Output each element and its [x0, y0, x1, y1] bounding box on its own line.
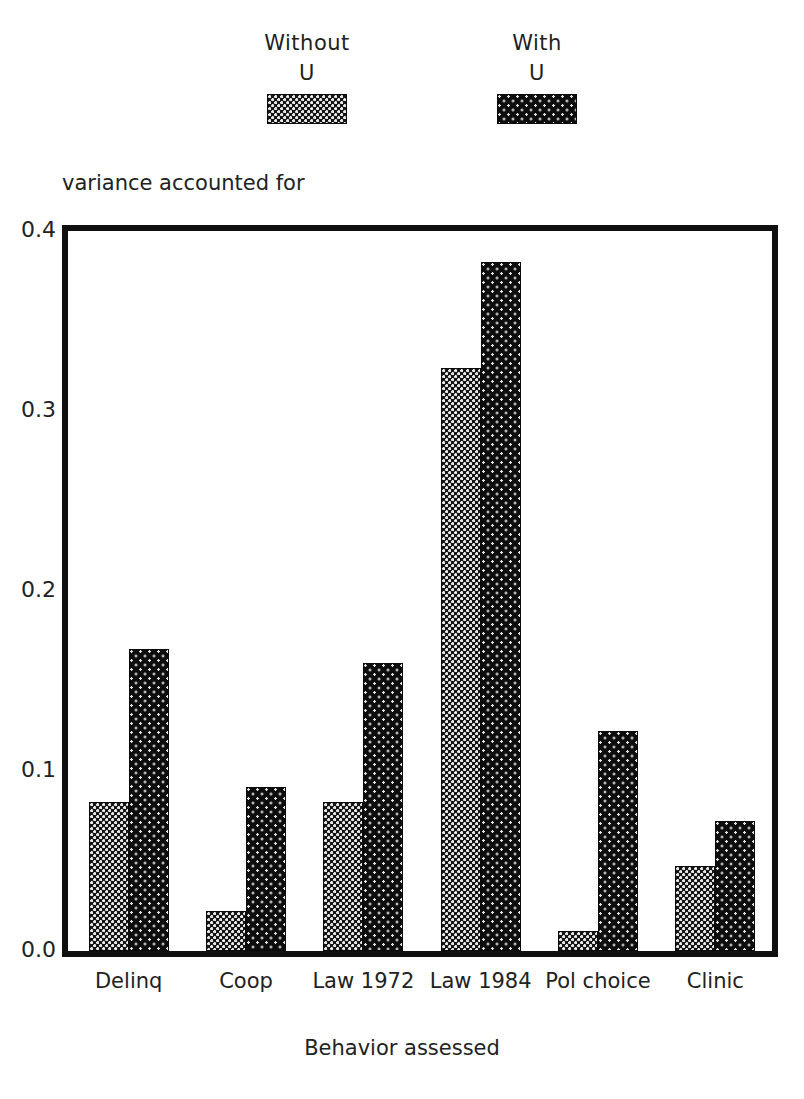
y-axis-tick-label: 0.3 — [21, 399, 56, 421]
bar-without-u — [441, 368, 481, 951]
y-axis-tick-label: 0.4 — [21, 219, 56, 241]
y-axis-tick-label: 0.2 — [21, 579, 56, 601]
bar-with-u — [363, 663, 403, 951]
bar-with-u — [715, 821, 755, 951]
legend-label-with-u-line2: U — [457, 58, 617, 88]
legend-swatch-with-u — [497, 94, 577, 124]
x-axis-category-label: Clinic — [657, 968, 774, 994]
y-axis-tick-label: 0.0 — [21, 939, 56, 961]
x-axis-category-label: Law 1972 — [305, 968, 422, 994]
x-axis-category-label: Law 1984 — [422, 968, 539, 994]
bar-without-u — [206, 911, 246, 951]
bar-with-u — [246, 787, 286, 951]
plot-frame — [62, 225, 778, 957]
bar-with-u — [598, 731, 638, 951]
legend-label-without-u-line1: Without — [227, 28, 387, 58]
legend-entry-with-u: With U — [457, 28, 617, 124]
x-axis-category-label: Coop — [187, 968, 304, 994]
chart-legend: Without U With U — [0, 0, 804, 160]
legend-swatch-without-u — [267, 94, 347, 124]
legend-label-without-u-line2: U — [227, 58, 387, 88]
x-axis-category-label: Delinq — [70, 968, 187, 994]
legend-entry-without-u: Without U — [227, 28, 387, 124]
legend-label-with-u-line1: With — [457, 28, 617, 58]
bar-without-u — [558, 931, 598, 951]
y-axis-tick-label: 0.1 — [21, 759, 56, 781]
plot-area — [68, 231, 772, 951]
bar-with-u — [481, 262, 521, 951]
x-axis-category-label: Pol choice — [539, 968, 656, 994]
bar-with-u — [129, 649, 169, 951]
bar-without-u — [323, 802, 363, 951]
bar-without-u — [89, 802, 129, 951]
bar-without-u — [675, 866, 715, 951]
x-axis-title: Behavior assessed — [0, 1036, 804, 1060]
y-axis-title: variance accounted for — [62, 170, 305, 196]
